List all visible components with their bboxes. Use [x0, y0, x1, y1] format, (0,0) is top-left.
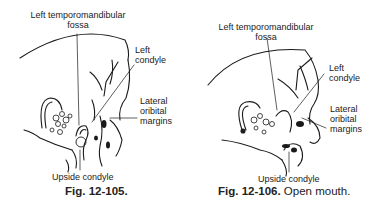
label-upside-condyle: Upside condyle — [258, 174, 320, 184]
label-lateral-orbital-margins: Lateral oribital margins — [140, 96, 172, 126]
figure-number: Fig. 12-105. — [65, 185, 128, 197]
figure-number: Fig. 12-106. — [218, 185, 281, 197]
label-left-condyle: Left condyle — [135, 45, 166, 65]
label-left-condyle: Left condyle — [329, 63, 360, 83]
figure-12-105: Left temporomandibular fossa Left condyl… — [0, 0, 190, 209]
label-upside-condyle: Upside condyle — [52, 172, 114, 182]
figure-12-106: Left temporomandibular fossa Left condyl… — [190, 0, 380, 209]
figure-caption-text: Open mouth. — [284, 185, 350, 197]
label-left-tmj-fossa: Left temporomandibular fossa — [216, 22, 316, 42]
label-lateral-orbital-margins: Lateral oribital margins — [330, 104, 362, 134]
figure-caption: Fig. 12-106. Open mouth. — [218, 185, 350, 197]
figure-caption: Fig. 12-105. — [65, 185, 128, 197]
label-left-tmj-fossa: Left temporomandibular fossa — [28, 10, 128, 30]
